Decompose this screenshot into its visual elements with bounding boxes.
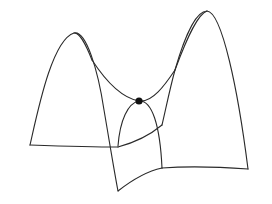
critical-point-marker — [135, 97, 142, 104]
saddle-ridge-curve — [92, 60, 175, 101]
front-bottom-edge — [118, 168, 162, 191]
left-peak-back-edge — [74, 33, 92, 60]
left-peak-outer-edge — [30, 33, 118, 191]
middle-cross-edge — [118, 125, 162, 147]
saddle-surface-diagram — [0, 0, 272, 204]
inner-arch — [118, 101, 162, 168]
right-peak-back-edge — [162, 11, 207, 125]
right-peak-outer-edge — [175, 11, 248, 169]
right-base-edge — [162, 167, 248, 169]
left-base-edge — [30, 145, 118, 147]
